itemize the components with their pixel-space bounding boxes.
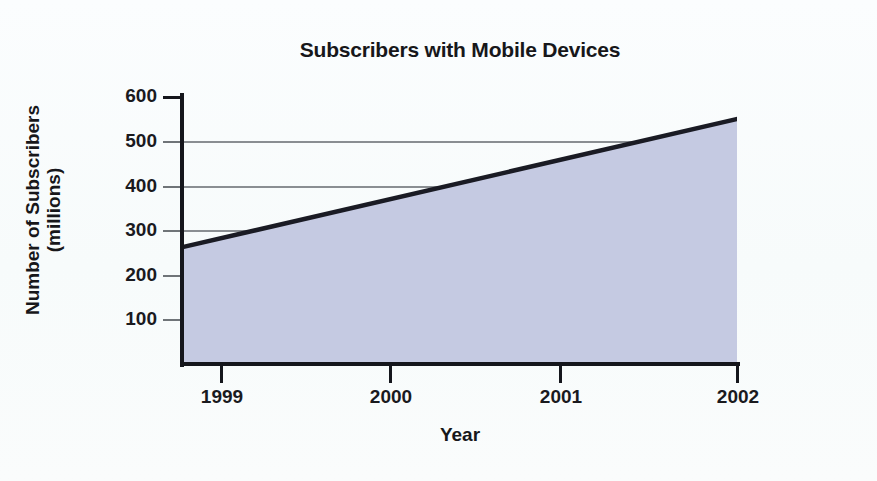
y-tick-label-300: 300 bbox=[95, 219, 157, 241]
y-axis-spine bbox=[180, 93, 184, 367]
area-fill-polygon bbox=[183, 119, 737, 364]
x-tick-label-1999: 1999 bbox=[177, 386, 267, 408]
x-tick-label-2000: 2000 bbox=[346, 386, 436, 408]
x-tick-1999 bbox=[220, 366, 223, 383]
x-axis-spine bbox=[180, 362, 740, 366]
x-axis-title: Year bbox=[183, 424, 737, 446]
y-axis-title-line2: (millions) bbox=[43, 60, 64, 360]
y-tick-label-500: 500 bbox=[95, 130, 157, 152]
x-tick-2002 bbox=[736, 366, 739, 383]
y-axis-title-line1: Number of Subscribers bbox=[22, 105, 43, 315]
x-tick-label-2002: 2002 bbox=[693, 386, 783, 408]
y-axis-title: Number of Subscribers (millions) bbox=[22, 60, 65, 360]
y-tick-label-600: 600 bbox=[95, 85, 157, 107]
area-series bbox=[183, 96, 737, 364]
x-tick-label-2001: 2001 bbox=[516, 386, 606, 408]
plot-area bbox=[183, 96, 737, 364]
y-tick-label-100: 100 bbox=[95, 308, 157, 330]
chart-figure: Subscribers with Mobile Devices Number o… bbox=[0, 0, 877, 481]
x-tick-2000 bbox=[389, 366, 392, 383]
x-tick-2001 bbox=[559, 366, 562, 383]
y-tick-label-400: 400 bbox=[95, 175, 157, 197]
chart-title: Subscribers with Mobile Devices bbox=[183, 38, 737, 62]
y-tick-label-200: 200 bbox=[95, 264, 157, 286]
